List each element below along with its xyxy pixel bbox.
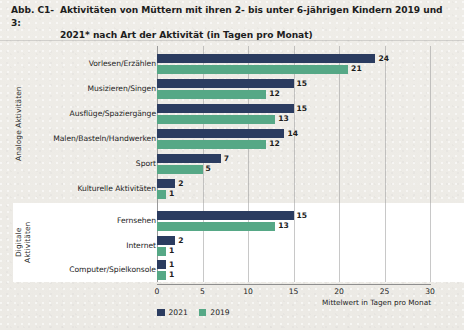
bar-2019 bbox=[157, 247, 166, 256]
bar-row: Malen/Basteln/Handwerken1412 bbox=[0, 128, 464, 153]
figure-title-text-1: Aktivitäten von Müttern mit ihren 2- bis… bbox=[60, 4, 456, 17]
bar-value-2021: 7 bbox=[224, 154, 229, 163]
bar-2021 bbox=[157, 260, 166, 269]
figure-title: Abb. C1-3: Aktivitäten von Müttern mit i… bbox=[11, 4, 456, 42]
bar-2019 bbox=[157, 190, 166, 199]
bar-value-2019: 1 bbox=[169, 270, 174, 279]
x-tick-label-30: 30 bbox=[425, 287, 435, 296]
bar-value-2021: 15 bbox=[297, 79, 308, 88]
bar-value-2019: 13 bbox=[278, 221, 289, 230]
bar-2021 bbox=[157, 211, 294, 220]
category-label: Internet bbox=[18, 241, 156, 250]
bar-row: Fernsehen1513 bbox=[0, 210, 464, 235]
bar-2019 bbox=[157, 140, 266, 149]
bar-2021 bbox=[157, 179, 175, 188]
bar-2021 bbox=[157, 236, 175, 245]
title-divider bbox=[0, 40, 464, 41]
bar-row: Computer/Spielkonsole11 bbox=[0, 259, 464, 284]
bar-value-2019: 1 bbox=[169, 189, 174, 198]
category-label: Computer/Spielkonsole bbox=[18, 265, 156, 274]
figure-number: Abb. C1-3: bbox=[11, 4, 60, 29]
category-label: Fernsehen bbox=[18, 216, 156, 225]
bar-2019 bbox=[157, 165, 203, 174]
category-label: Sport bbox=[18, 159, 156, 168]
bar-2021 bbox=[157, 79, 294, 88]
x-tick-label-5: 5 bbox=[200, 287, 205, 296]
bar-value-2019: 13 bbox=[278, 114, 289, 123]
x-tick-label-25: 25 bbox=[380, 287, 390, 296]
chart-legend: 20212019 bbox=[157, 308, 230, 317]
bar-2021 bbox=[157, 104, 294, 113]
bar-2019 bbox=[157, 271, 166, 280]
legend-label: 2021 bbox=[169, 308, 188, 317]
x-axis-line bbox=[157, 284, 431, 285]
bar-value-2021: 15 bbox=[297, 104, 308, 113]
bar-2019 bbox=[157, 90, 266, 99]
bar-row: Ausflüge/Spaziergänge1513 bbox=[0, 103, 464, 128]
legend-swatch-icon bbox=[157, 309, 165, 317]
figure-container: Abb. C1-3: Aktivitäten von Müttern mit i… bbox=[0, 0, 464, 330]
legend-swatch-icon bbox=[199, 309, 207, 317]
bar-value-2019: 12 bbox=[269, 139, 280, 148]
legend-item-2021[interactable]: 2021 bbox=[157, 308, 188, 317]
bar-value-2019: 5 bbox=[206, 164, 211, 173]
legend-label: 2019 bbox=[210, 308, 229, 317]
bar-2021 bbox=[157, 154, 221, 163]
bar-value-2019: 1 bbox=[169, 246, 174, 255]
bar-row: Vorlesen/Erzählen2421 bbox=[0, 53, 464, 78]
category-label: Kulturelle Aktivitäten bbox=[18, 184, 156, 193]
bar-value-2019: 12 bbox=[269, 89, 280, 98]
bar-2019 bbox=[157, 222, 275, 231]
x-tick-label-20: 20 bbox=[334, 287, 344, 296]
bar-value-2021: 14 bbox=[287, 129, 298, 138]
x-tick-label-15: 15 bbox=[289, 287, 299, 296]
legend-item-2019[interactable]: 2019 bbox=[199, 308, 230, 317]
category-label: Malen/Basteln/Handwerken bbox=[18, 134, 156, 143]
x-axis-title: Mittelwert in Tagen pro Monat bbox=[322, 298, 431, 307]
bar-row: Sport75 bbox=[0, 153, 464, 178]
bar-value-2021: 15 bbox=[297, 211, 308, 220]
category-label: Vorlesen/Erzählen bbox=[18, 59, 156, 68]
bar-value-2021: 1 bbox=[169, 260, 174, 269]
category-label: Ausflüge/Spaziergänge bbox=[18, 109, 156, 118]
bar-value-2021: 24 bbox=[378, 54, 389, 63]
bar-value-2019: 21 bbox=[351, 64, 362, 73]
bar-row: Internet21 bbox=[0, 235, 464, 260]
plot-area: Analoge Aktivitäten Digitale Aktivitäten… bbox=[0, 44, 464, 286]
bar-row: Kulturelle Aktivitäten21 bbox=[0, 178, 464, 203]
bar-2021 bbox=[157, 129, 284, 138]
figure-title-line-1: Abb. C1-3: Aktivitäten von Müttern mit i… bbox=[11, 4, 456, 29]
x-tick-label-10: 10 bbox=[243, 287, 253, 296]
bar-2019 bbox=[157, 115, 275, 124]
category-label: Musizieren/Singen bbox=[18, 84, 156, 93]
bar-value-2021: 2 bbox=[178, 236, 183, 245]
x-tick-label-0: 0 bbox=[155, 287, 160, 296]
bar-2019 bbox=[157, 65, 348, 74]
bar-2021 bbox=[157, 54, 375, 63]
bar-row: Musizieren/Singen1512 bbox=[0, 78, 464, 103]
bar-value-2021: 2 bbox=[178, 179, 183, 188]
x-axis: 051015202530 Mittelwert in Tagen pro Mon… bbox=[0, 284, 464, 300]
